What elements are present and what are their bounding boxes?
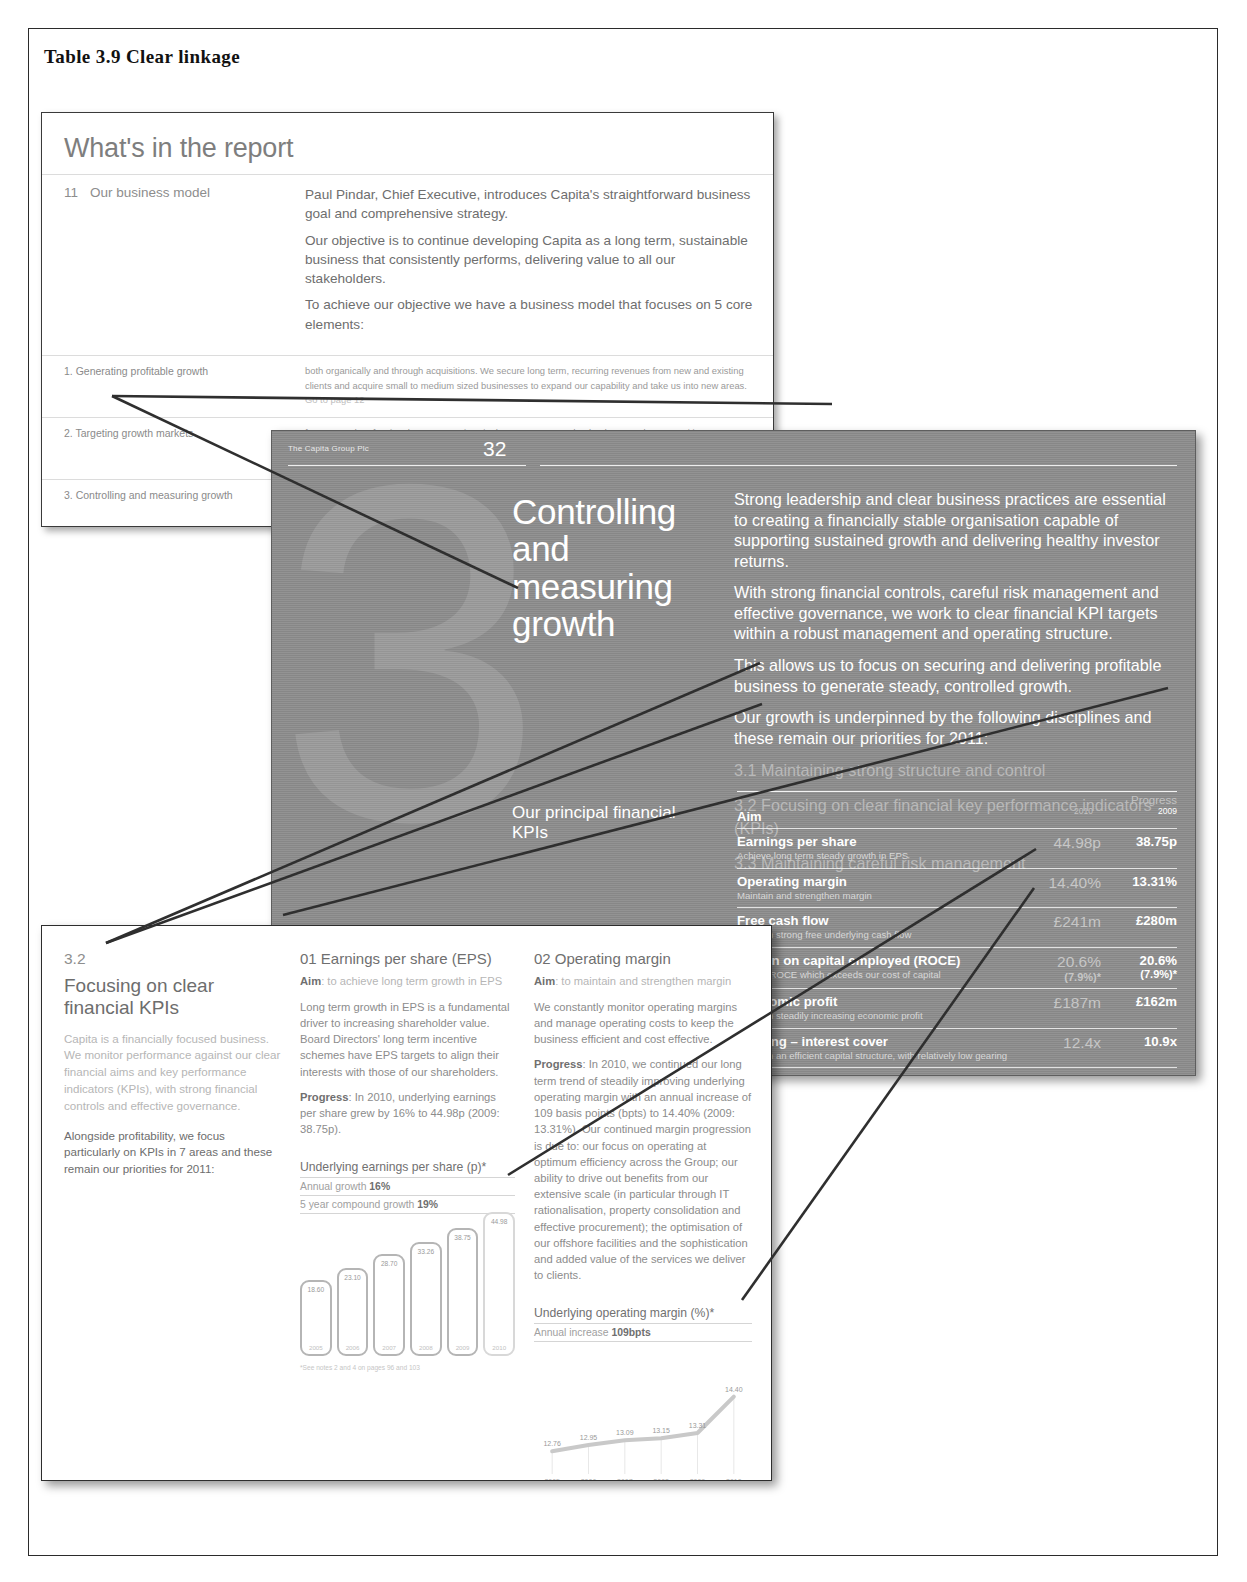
table-row: 1. Generating profitable growth both org… [42, 355, 773, 417]
bar-2007: 28.702007 [373, 1254, 405, 1356]
kpi-value-2010: 20.6%(7.9%)* [1015, 953, 1101, 983]
margin-progress-text: : In 2010, we continued our long term tr… [534, 1058, 751, 1281]
eps-progress-label: Progress [300, 1091, 349, 1103]
line-category-label: 2010 [716, 1478, 752, 1481]
section-intro-strong: Alongside profitability, we focus partic… [64, 1128, 284, 1178]
bar-category-label: 2005 [302, 1344, 330, 1351]
brand-label: The Capita Group Plc [288, 444, 369, 453]
bar-2008: 33.262008 [410, 1242, 442, 1355]
kpi-value-2009-main: 20.6% [1140, 953, 1177, 968]
kpi-value-2010: 44.98p [1015, 834, 1101, 852]
chart-subtitle-1: Annual increase 109bpts [534, 1324, 752, 1342]
line-value-label: 13.15 [652, 1427, 670, 1434]
line-category-label: 2005 [534, 1478, 570, 1481]
kpi-name: Earnings per share [737, 834, 1015, 849]
whats-in-report-heading: What's in the report [42, 113, 773, 174]
kpi-col-year-2010: 2010 [1015, 806, 1093, 816]
kpi-value-2009: £280m [1101, 913, 1177, 928]
kpi-page-intro-column: 3.2 Focusing on clear financial KPIs Cap… [64, 950, 284, 1178]
dark-paragraph-2: With strong financial controls, careful … [734, 582, 1180, 644]
report-row-desc: both organically and through acquisition… [305, 365, 747, 391]
kpi-value-2009: 2.5% [1101, 1073, 1177, 1076]
kpi-section-label: Our principal financial KPIs [512, 803, 702, 844]
kpi-value-2009: 13.31% [1101, 874, 1177, 889]
line-chart-plot: 12.7612.9513.0913.1513.3114.40 [534, 1356, 752, 1476]
line-category-label: 2008 [643, 1478, 679, 1481]
page-title: Table 3.9 Clear linkage [44, 46, 240, 68]
goto-link[interactable]: Go to page 12 [305, 394, 364, 405]
eps-aim-label: Aim [300, 975, 321, 987]
margin-aim: Aim: to maintain and strengthen margin [534, 974, 752, 990]
kpi-name: Capital expenditure [737, 1073, 1015, 1076]
panel-focusing-on-clear-financial-kpis: 3.2 Focusing on clear financial KPIs Cap… [41, 925, 772, 1481]
kpi-aim: Maintain an efficient capital structure,… [737, 1050, 1015, 1062]
report-top-row-body: Paul Pindar, Chief Executive, introduces… [305, 185, 759, 341]
report-top-row-title: Our business model [90, 185, 305, 341]
table-row: Economic profit Maintain steadily increa… [737, 988, 1177, 1028]
line-category-label: 2009 [679, 1478, 715, 1481]
line-chart-x-axis: 200520062007200820092010 [534, 1478, 752, 1481]
kpi-col-year-2009: 2009 [1103, 806, 1177, 816]
margin-body: We constantly monitor operating margins … [534, 999, 752, 1048]
line-category-label: 2006 [570, 1478, 606, 1481]
kpi-name: Operating margin [737, 874, 1015, 889]
bar-value-label: 18.60 [302, 1286, 330, 1293]
kpi-name: Gearing – interest cover [737, 1034, 1015, 1049]
table-row: Earnings per share Achieve long term ste… [737, 828, 1177, 868]
kpi-col-progress-group: Progress 2010 2009 [1007, 794, 1177, 816]
bar-category-label: 2006 [339, 1344, 367, 1351]
kpi-value-2009-sub: (7.9%)* [1101, 968, 1177, 980]
report-top-row: 11 Our business model Paul Pindar, Chief… [42, 174, 773, 355]
report-top-row-page: 11 [64, 185, 90, 341]
chart-subtitle-1-value: 16% [369, 1181, 390, 1192]
kpi-value-2010-main: 20.6% [1057, 953, 1101, 970]
kpi-column-eps: 01 Earnings per share (EPS) Aim: to achi… [300, 950, 515, 1371]
kpi-value-2009: 10.9x [1101, 1034, 1177, 1049]
kpi-name: Free cash flow [737, 913, 1015, 928]
bar-2009: 38.752009 [447, 1228, 479, 1355]
eps-body: Long term growth in EPS is a fundamental… [300, 999, 515, 1080]
kpi-name: Return on capital employed (ROCE) [737, 953, 1015, 968]
kpi-col-progress: Progress [1007, 794, 1177, 806]
table-row: Operating margin Maintain and strengthen… [737, 868, 1177, 908]
report-row-title: 1. Generating profitable growth [64, 364, 305, 408]
chart-subtitle-1-value: 109bpts [611, 1327, 650, 1338]
dark-paragraph-1: Strong leadership and clear business pra… [734, 489, 1180, 571]
chart-subtitle-1-prefix: Annual growth [300, 1181, 369, 1192]
kpi-value-2010: 14.40% [1015, 874, 1101, 892]
chart-subtitle-1: Annual growth 16% [300, 1178, 515, 1196]
divider-left [288, 465, 526, 466]
bar-2010: 44.982010 [483, 1212, 515, 1355]
kpi-value-2009: 38.75p [1101, 834, 1177, 849]
dark-paragraph-4: Our growth is underpinned by the followi… [734, 707, 1180, 748]
kpi-name: Economic profit [737, 994, 1015, 1009]
chart-subtitle-2-prefix: 5 year compound growth [300, 1199, 417, 1210]
report-row-title: 3. Controlling and measuring growth [64, 488, 305, 527]
margin-aim-label: Aim [534, 975, 555, 987]
kpi-value-2010: 3.6% [1015, 1073, 1101, 1076]
margin-progress: Progress: In 2010, we continued our long… [534, 1056, 752, 1283]
section-title: Focusing on clear financial KPIs [64, 975, 284, 1019]
bar-value-label: 33.26 [412, 1248, 440, 1255]
bar-value-label: 38.75 [449, 1234, 477, 1241]
line-category-label: 2007 [607, 1478, 643, 1481]
bar-value-label: 23.10 [339, 1274, 367, 1281]
kpi-column-operating-margin: 02 Operating margin Aim: to maintain and… [534, 950, 752, 1481]
bar-category-label: 2010 [485, 1344, 513, 1351]
dark-subitem-31[interactable]: 3.1 Maintaining strong structure and con… [734, 759, 1180, 782]
eps-aim: Aim: to achieve long term growth in EPS [300, 974, 515, 990]
table-row: Free cash flow Maintain strong free unde… [737, 907, 1177, 947]
bar-2006: 23.102006 [337, 1268, 369, 1355]
watermark-numeral: 3 [277, 466, 544, 840]
eps-progress: Progress: In 2010, underlying earnings p… [300, 1089, 515, 1138]
table-row: Capital expenditure Maintain at or below… [737, 1067, 1177, 1076]
kpi-aim: Maintain steadily increasing economic pr… [737, 1010, 1015, 1022]
section-number: 3.2 [64, 950, 284, 968]
kpi-value-2010: £187m [1015, 994, 1101, 1012]
kpi-value-2010: 12.4x [1015, 1034, 1101, 1052]
kpi-value-2009: £162m [1101, 994, 1177, 1009]
report-paragraph-1: Paul Pindar, Chief Executive, introduces… [305, 185, 759, 224]
chart-underlying-eps: Underlying earnings per share (p)* Annua… [300, 1160, 515, 1371]
kpi-aim: Maintain strong free underlying cash flo… [737, 929, 1015, 941]
table-row: Return on capital employed (ROCE) Delive… [737, 947, 1177, 988]
